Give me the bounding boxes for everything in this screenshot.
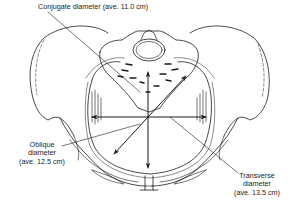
left-iliac-wing (30, 26, 108, 136)
oblique-label-line3: (ave. 12.5 cm) (12, 158, 72, 166)
pelvic-inlet (88, 62, 212, 174)
vertebral-body (133, 39, 165, 61)
oblique-diameter-label: Oblique diameter (ave. 12.5 cm) (12, 141, 72, 166)
right-iliac-wing (190, 26, 269, 136)
pelvis-diagram: Conjugate diameter (ave. 11.0 cm) Obliqu… (0, 0, 297, 214)
transverse-label-line3: (ave. 13.5 cm) (224, 189, 290, 197)
transverse-diameter-label: Transverse diameter (ave. 13.5 cm) (224, 172, 290, 197)
conjugate-label-text: Conjugate diameter (ave. 11.0 cm) (38, 3, 148, 11)
sacrum (100, 31, 199, 112)
diameter-arrows (92, 72, 206, 168)
conjugate-diameter-label: Conjugate diameter (ave. 11.0 cm) (38, 3, 148, 11)
